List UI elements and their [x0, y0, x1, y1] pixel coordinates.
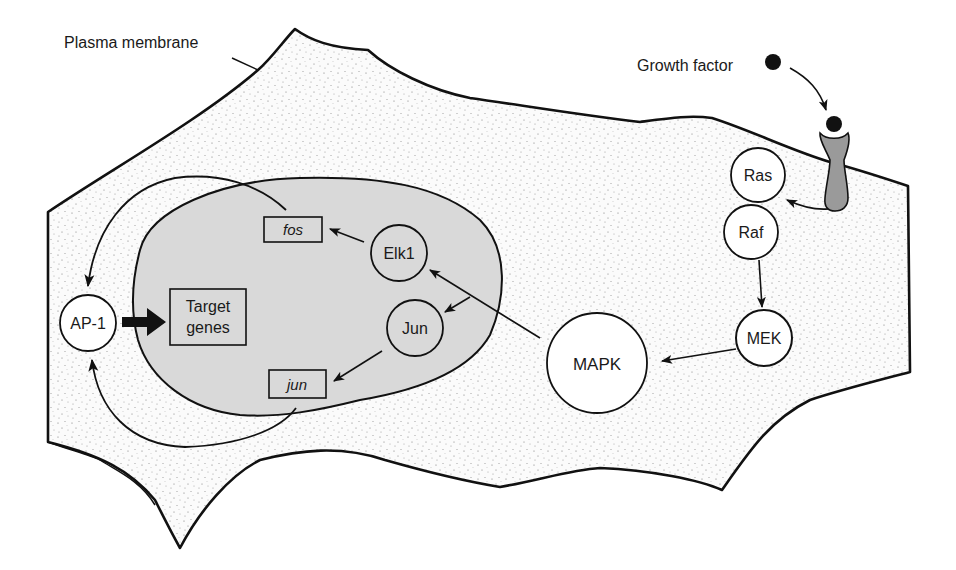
- node-fos-gene[interactable]: fos: [264, 217, 322, 242]
- node-ap1[interactable]: AP-1: [60, 295, 116, 351]
- jun-gene-label: jun: [285, 376, 307, 393]
- mapk-label: MAPK: [573, 355, 622, 374]
- ras-label: Ras: [744, 167, 772, 184]
- plasma-membrane-pointer: [232, 58, 258, 70]
- node-mapk[interactable]: MAPK: [547, 313, 647, 413]
- node-raf[interactable]: Raf: [724, 205, 778, 259]
- target-genes-label-line1: Target: [186, 298, 231, 315]
- node-jun-gene[interactable]: jun: [269, 370, 326, 398]
- node-jun-protein[interactable]: Jun: [387, 300, 443, 356]
- ap1-label: AP-1: [70, 315, 106, 332]
- node-elk1[interactable]: Elk1: [371, 225, 427, 281]
- jun-protein-label: Jun: [402, 320, 428, 337]
- node-ras[interactable]: Ras: [731, 148, 785, 202]
- elk1-label: Elk1: [383, 245, 414, 262]
- signaling-diagram: Plasma membrane Growth factor Ras Raf ME…: [0, 0, 956, 570]
- growth-factor-arrow: [790, 68, 826, 110]
- bound-ligand-icon: [826, 116, 842, 132]
- fos-label: fos: [283, 221, 304, 238]
- raf-label: Raf: [739, 224, 764, 241]
- node-target-genes[interactable]: Target genes: [170, 289, 246, 345]
- mek-label: MEK: [747, 330, 782, 347]
- plasma-membrane-label: Plasma membrane: [64, 34, 198, 51]
- target-genes-label-line2: genes: [186, 319, 230, 336]
- node-mek[interactable]: MEK: [736, 310, 792, 366]
- growth-factor-label: Growth factor: [637, 57, 734, 74]
- growth-factor-icon: [765, 54, 781, 70]
